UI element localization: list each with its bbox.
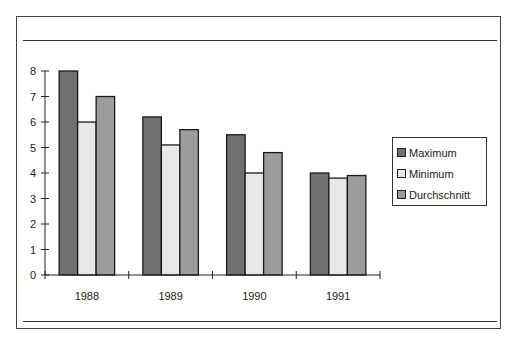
legend-item-minimum: Minimum — [397, 163, 486, 184]
bar-minimum-1991 — [329, 178, 348, 275]
chart-legend: Maximum Minimum Durchschnitt — [392, 137, 487, 206]
x-tick-label: 1991 — [326, 290, 350, 302]
x-tick-label: 1988 — [75, 290, 99, 302]
legend-swatch-maximum — [397, 148, 406, 157]
y-tick-label: 1 — [30, 244, 36, 256]
x-tick-label: 1990 — [242, 290, 266, 302]
y-tick-label: 6 — [30, 116, 36, 128]
bar-maximum-1989 — [143, 117, 162, 275]
legend-item-durchschnitt: Durchschnitt — [397, 184, 486, 205]
bar-durchschnitt-1989 — [180, 130, 199, 275]
bar-minimum-1989 — [161, 145, 180, 275]
bar-maximum-1990 — [227, 135, 246, 275]
bar-maximum-1988 — [59, 71, 78, 275]
bar-durchschnitt-1991 — [347, 176, 366, 275]
y-tick-label: 4 — [30, 167, 36, 179]
bar-durchschnitt-1990 — [264, 153, 283, 275]
y-tick-label: 8 — [30, 65, 36, 77]
legend-label: Minimum — [409, 168, 454, 180]
legend-label: Durchschnitt — [409, 189, 470, 201]
y-tick-label: 3 — [30, 193, 36, 205]
y-tick-label: 2 — [30, 218, 36, 230]
bar-minimum-1990 — [245, 173, 264, 275]
y-tick-label: 7 — [30, 91, 36, 103]
bar-durchschnitt-1988 — [96, 97, 115, 276]
x-tick-label: 1989 — [158, 290, 182, 302]
y-tick-label: 5 — [30, 142, 36, 154]
legend-swatch-durchschnitt — [397, 190, 406, 199]
bar-maximum-1991 — [310, 173, 329, 275]
legend-item-maximum: Maximum — [397, 142, 486, 163]
legend-label: Maximum — [409, 147, 457, 159]
bar-minimum-1988 — [78, 122, 97, 275]
y-tick-label: 0 — [30, 269, 36, 281]
legend-swatch-minimum — [397, 169, 406, 178]
